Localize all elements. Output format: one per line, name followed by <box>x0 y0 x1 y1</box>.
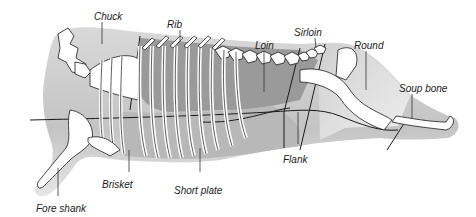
label-flank: Flank <box>283 155 307 165</box>
label-brisket: Brisket <box>102 180 133 190</box>
label-round: Round <box>354 41 383 51</box>
label-loin: Loin <box>255 41 274 51</box>
label-soup-bone: Soup bone <box>399 84 447 94</box>
carcass-illustration <box>0 0 476 217</box>
beef-cuts-diagram: Chuck Rib Loin Sirloin Round Soup bone F… <box>0 0 476 217</box>
round-region <box>318 44 410 140</box>
label-short-plate: Short plate <box>174 186 222 196</box>
short-plate-region <box>120 106 300 159</box>
label-rib: Rib <box>167 20 182 30</box>
label-sirloin: Sirloin <box>294 28 322 38</box>
label-fore-shank: Fore shank <box>36 204 86 214</box>
label-chuck: Chuck <box>94 12 122 22</box>
